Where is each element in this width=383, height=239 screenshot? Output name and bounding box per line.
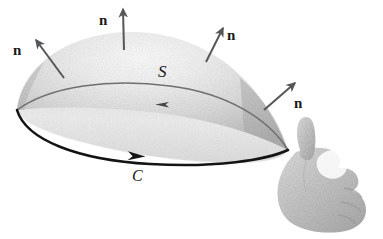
normal-top-label: n xyxy=(99,12,108,28)
normal-top-arrow xyxy=(123,9,124,50)
right-hand-thumbs-up xyxy=(278,117,367,233)
normal-vector-right: n xyxy=(264,83,303,111)
figure-canvas: S C n n n n xyxy=(0,0,383,239)
stokes-orientation-figure: S C n n n n xyxy=(0,0,383,239)
surface-label: S xyxy=(158,62,167,81)
surface-s-group: S xyxy=(14,32,291,176)
normal-right-arrow xyxy=(264,83,295,110)
normal-right-label: n xyxy=(294,95,303,111)
normal-left-label: n xyxy=(13,42,22,58)
normal-upper-right-label: n xyxy=(227,27,236,43)
curve-label: C xyxy=(132,167,143,184)
